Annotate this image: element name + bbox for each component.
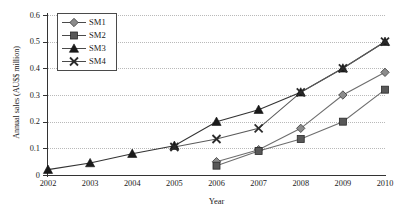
legend-marker-cross-icon bbox=[61, 55, 87, 68]
y-tick-label: 0.1 bbox=[14, 144, 40, 153]
data-point-cross bbox=[255, 124, 263, 132]
y-tick-label: 0.3 bbox=[14, 91, 40, 100]
x-tick-label: 2006 bbox=[196, 179, 238, 188]
x-axis-line bbox=[47, 175, 386, 176]
y-tick-label: 0.5 bbox=[14, 37, 40, 46]
x-tick-label: 2004 bbox=[111, 179, 153, 188]
legend-marker-triangle-icon bbox=[61, 42, 87, 55]
legend-marker-diamond-icon bbox=[61, 16, 87, 29]
x-tick-label: 2009 bbox=[322, 179, 364, 188]
x-tick-label: 2002 bbox=[27, 179, 69, 188]
legend-label: SM3 bbox=[87, 42, 106, 55]
legend-label: SM1 bbox=[87, 16, 106, 29]
data-point-cross bbox=[70, 58, 78, 66]
legend-label: SM2 bbox=[87, 29, 106, 42]
data-point-triangle bbox=[254, 105, 263, 113]
chart-legend: SM1SM2SM3SM4 bbox=[57, 13, 117, 71]
legend-item-sm1[interactable]: SM1 bbox=[61, 16, 113, 29]
x-tick-label: 2005 bbox=[153, 179, 195, 188]
legend-marker-square-icon bbox=[61, 29, 87, 42]
series-line-sm1 bbox=[217, 72, 386, 161]
y-tick-label: 0.4 bbox=[14, 64, 40, 73]
y-tick-label: 0.2 bbox=[14, 117, 40, 126]
x-tick-label: 2008 bbox=[280, 179, 322, 188]
data-point-square bbox=[382, 86, 389, 93]
legend-item-sm3[interactable]: SM3 bbox=[61, 42, 113, 55]
data-point-square bbox=[339, 118, 346, 125]
data-point-square bbox=[71, 32, 78, 39]
legend-item-sm4[interactable]: SM4 bbox=[61, 55, 113, 68]
x-axis-title: Year bbox=[48, 196, 385, 206]
data-point-square bbox=[213, 162, 220, 169]
legend-label: SM4 bbox=[87, 55, 106, 68]
x-tick-label: 2007 bbox=[238, 179, 280, 188]
data-point-triangle bbox=[69, 44, 78, 52]
data-point-square bbox=[297, 136, 304, 143]
x-tick-label: 2003 bbox=[69, 179, 111, 188]
y-tick-label: 0.6 bbox=[14, 11, 40, 20]
legend-item-sm2[interactable]: SM2 bbox=[61, 29, 113, 42]
y-tick-mark bbox=[43, 175, 48, 176]
data-point-diamond bbox=[381, 68, 389, 76]
data-point-diamond bbox=[70, 18, 78, 26]
data-point-square bbox=[255, 148, 262, 155]
x-tick-label: 2010 bbox=[364, 179, 397, 188]
sales-line-chart: Annual sales (AU$$ million) 00.10.20.30.… bbox=[0, 0, 397, 215]
series-line-sm4 bbox=[174, 42, 385, 147]
